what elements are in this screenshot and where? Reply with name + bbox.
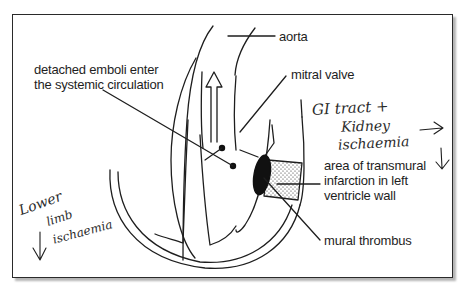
- mitral-leader-line: [240, 76, 286, 132]
- lv-wall-upper: [301, 100, 302, 117]
- mitral-valve-leaflet-left: [240, 150, 258, 157]
- label-emboli-line1: detached emboli enter: [34, 62, 158, 77]
- label-aorta: aorta: [279, 29, 308, 44]
- label-mitral-valve: mitral valve: [291, 67, 354, 82]
- lv-outer-wall: [300, 117, 304, 205]
- flow-arrow-icon: [206, 72, 222, 142]
- label-infarction-line1: area of transmural: [324, 158, 426, 173]
- diagram-canvas: aorta mitral valve detached emboli enter…: [0, 0, 466, 287]
- note-gi-line3: ischaemia: [338, 134, 410, 152]
- note-gi-line2: Kidney: [341, 118, 391, 134]
- note-gi-line1: GI tract +: [312, 99, 389, 118]
- aorta-inner-left: [201, 72, 203, 148]
- label-mural-thrombus: mural thrombus: [324, 233, 412, 248]
- label-infarction-line2: infarction in left: [324, 173, 408, 188]
- aorta-inner-right: [235, 76, 237, 150]
- aorta-right-wall: [235, 28, 255, 75]
- label-emboli-line2: the systemic circulation: [34, 77, 164, 92]
- limb-arrow-down-icon: [33, 232, 46, 260]
- gi-arrow-right-icon: [420, 122, 443, 134]
- gi-arrow-down-icon: [436, 148, 449, 169]
- label-infarction-line3: ventricle wall: [324, 188, 396, 203]
